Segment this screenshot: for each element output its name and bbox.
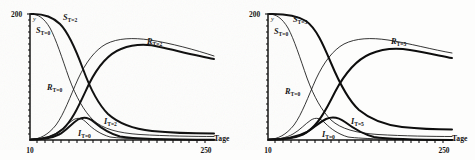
chart-panel-left: 200 y 10 250 Tage ST=2 ST=0 RT=2 RT=0 IT… xyxy=(0,0,237,160)
chart-svg-left: 200 y 10 250 Tage ST=2 ST=0 RT=2 RT=0 IT… xyxy=(0,0,237,160)
axes-left xyxy=(30,14,215,140)
x-start-label: 10 xyxy=(264,146,272,155)
x-axis-name: Tage xyxy=(214,134,230,143)
y-max-label: 200 xyxy=(249,10,260,19)
y-axis-ticks xyxy=(265,14,268,134)
curve-s-treated xyxy=(31,14,214,134)
y-axis-ticks xyxy=(27,14,30,134)
label-i-base: IT=0 xyxy=(77,129,91,139)
label-s-base: ST=0 xyxy=(36,26,50,36)
label-s-treated: ST=2 xyxy=(63,13,77,23)
chart-svg-right: 200 y 10 250 Tage ST=5 ST=0 RT=5 RT=0 IT… xyxy=(238,0,475,160)
label-r-base: RT=0 xyxy=(284,87,300,97)
y-max-label: 200 xyxy=(11,10,22,19)
x-end-label: 250 xyxy=(200,146,211,155)
label-i-treated: IT=5 xyxy=(350,117,364,127)
x-end-label: 250 xyxy=(438,146,449,155)
label-i-base: IT=0 xyxy=(321,130,335,140)
x-start-label: 10 xyxy=(26,146,34,155)
label-r-treated: RT=5 xyxy=(390,37,406,47)
curve-labels-left: ST=2 ST=0 RT=2 RT=0 IT=2 IT=0 xyxy=(36,13,162,139)
figure-container: 200 y 10 250 Tage ST=2 ST=0 RT=2 RT=0 IT… xyxy=(0,0,475,160)
label-s-base: ST=0 xyxy=(274,27,288,37)
curve-s-base xyxy=(31,14,214,137)
label-s-treated: ST=5 xyxy=(293,15,307,25)
label-r-treated: RT=2 xyxy=(146,37,162,47)
y-axis-name: y xyxy=(32,15,36,22)
curve-labels-right: ST=5 ST=0 RT=5 RT=0 IT=5 IT=0 xyxy=(274,15,406,140)
curve-s-base xyxy=(269,14,452,137)
y-axis-name: y xyxy=(270,15,274,22)
curve-s-treated xyxy=(269,14,452,130)
label-r-base: RT=0 xyxy=(46,83,62,93)
x-axis-name: Tage xyxy=(452,134,468,143)
chart-panel-right: 200 y 10 250 Tage ST=5 ST=0 RT=5 RT=0 IT… xyxy=(238,0,475,160)
